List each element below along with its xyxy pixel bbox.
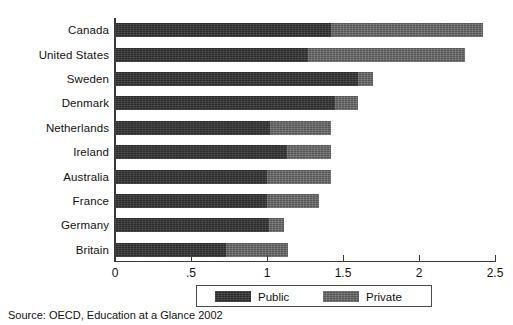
bar-segment-public — [115, 121, 270, 135]
bar-segment-public — [115, 218, 269, 232]
x-tick-mark — [343, 255, 344, 262]
bar-segment-private — [308, 48, 465, 62]
x-tick-label: 2 — [416, 266, 423, 280]
category-label: United States — [0, 49, 109, 61]
x-tick-label: 1.5 — [335, 266, 352, 280]
plot-area — [115, 18, 495, 262]
legend-swatch-icon — [215, 291, 251, 302]
bar-segment-private — [331, 23, 483, 37]
x-tick-label: 1 — [264, 266, 271, 280]
x-tick-label: .5 — [186, 266, 196, 280]
bar-segment-public — [115, 194, 267, 208]
bar-segment-public — [115, 96, 335, 110]
bar-segment-private — [269, 218, 284, 232]
category-label: Australia — [0, 171, 109, 183]
bar-segment-public — [115, 48, 308, 62]
x-tick-mark — [115, 255, 116, 262]
x-tick-label: 0 — [112, 266, 119, 280]
legend-label: Public — [258, 291, 289, 303]
bar-segment-private — [270, 121, 331, 135]
legend-swatch-icon — [323, 291, 359, 302]
bar-segment-public — [115, 23, 331, 37]
bar-segment-public — [115, 72, 358, 86]
bar-segment-public — [115, 243, 226, 257]
bar-segment-private — [267, 170, 331, 184]
bar-segment-public — [115, 170, 267, 184]
bar-chart: CanadaUnited StatesSwedenDenmarkNetherla… — [0, 0, 513, 325]
bar-segment-private — [287, 145, 331, 159]
category-label: Germany — [0, 219, 109, 231]
category-label: Canada — [0, 24, 109, 36]
bar-segment-private — [358, 72, 373, 86]
legend-entry: Private — [323, 289, 402, 304]
legend-label: Private — [366, 291, 402, 303]
category-label: Sweden — [0, 73, 109, 85]
x-tick-mark — [191, 255, 192, 262]
category-label: Netherlands — [0, 122, 109, 134]
chart-legend: PublicPrivate — [196, 285, 432, 307]
category-label: France — [0, 195, 109, 207]
source-note: Source: OECD, Education at a Glance 2002 — [8, 309, 223, 322]
x-tick-mark — [495, 255, 496, 262]
bar-segment-public — [115, 145, 287, 159]
bar-segment-private — [267, 194, 319, 208]
category-axis-labels: CanadaUnited StatesSwedenDenmarkNetherla… — [0, 18, 109, 262]
x-tick-mark — [419, 255, 420, 262]
legend-entry: Public — [215, 289, 289, 304]
category-label: Denmark — [0, 97, 109, 109]
category-label: Britain — [0, 244, 109, 256]
bar-segment-private — [335, 96, 358, 110]
x-tick-mark — [267, 255, 268, 262]
category-label: Ireland — [0, 146, 109, 158]
x-tick-label: 2.5 — [487, 266, 504, 280]
bar-segment-private — [226, 243, 288, 257]
